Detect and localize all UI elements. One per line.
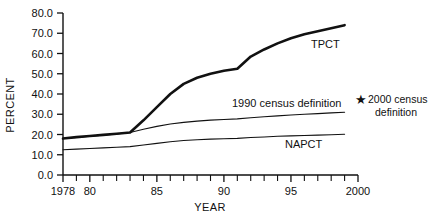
series-label-napct: NAPCT: [285, 138, 323, 150]
x-axis-title: YEAR: [194, 201, 226, 213]
census-2000-note-line2: definition: [375, 106, 417, 118]
star-icon: ★: [355, 92, 367, 107]
x-tick-label: 2000: [346, 185, 370, 197]
census-2000-note-line1: 2000 census: [368, 93, 428, 105]
y-tick-label: 30.0: [32, 108, 53, 120]
y-axis-title: PERCENT: [4, 77, 16, 132]
y-tick-label: 20.0: [32, 129, 53, 141]
y-tick-label: 80.0: [32, 7, 53, 19]
y-axis-ticks: 0.010.020.030.040.050.060.070.080.0: [32, 7, 63, 181]
y-tick-label: 0.0: [38, 169, 53, 181]
x-tick-label: 80: [84, 185, 96, 197]
series-line-tpct: [63, 25, 345, 138]
x-tick-label: 90: [218, 185, 230, 197]
x-axis-tick-labels: 1978808590952000: [51, 185, 370, 197]
series-label-1990-census-definition: 1990 census definition: [232, 97, 341, 109]
y-tick-label: 60.0: [32, 48, 53, 60]
x-axis-ticks: [63, 175, 358, 182]
y-tick-label: 40.0: [32, 88, 53, 100]
chart-figure: 0.010.020.030.040.050.060.070.080.0 1978…: [0, 0, 437, 222]
line-chart-svg: 0.010.020.030.040.050.060.070.080.0 1978…: [0, 0, 437, 222]
y-tick-label: 70.0: [32, 27, 53, 39]
series-line-1990-census-definition: [63, 112, 345, 138]
y-tick-label: 50.0: [32, 68, 53, 80]
x-tick-label: 95: [285, 185, 297, 197]
x-tick-label: 1978: [51, 185, 75, 197]
series-lines: [63, 25, 345, 150]
y-tick-label: 10.0: [32, 149, 53, 161]
series-label-tpct: TPCT: [311, 38, 340, 50]
x-tick-label: 85: [151, 185, 163, 197]
